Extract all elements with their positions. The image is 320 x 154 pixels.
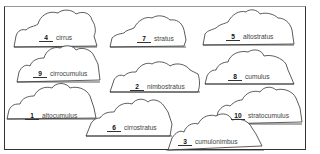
answer-blank[interactable]: 8 bbox=[228, 73, 242, 81]
answer-blank[interactable]: 3 bbox=[178, 138, 192, 146]
answer-blank[interactable]: 1 bbox=[25, 112, 39, 120]
cloud-label-stratus: 7stratus bbox=[137, 35, 174, 43]
answer-blank[interactable]: 4 bbox=[39, 34, 53, 42]
answer-blank[interactable]: 6 bbox=[107, 124, 121, 132]
cloud-label-stratocumulus: 10stratocumulus bbox=[231, 112, 289, 120]
answer-blank[interactable]: 5 bbox=[226, 33, 240, 41]
answer-blank[interactable]: 7 bbox=[137, 35, 151, 43]
cloud-label-cirrostratus: 6cirrostratus bbox=[107, 124, 157, 132]
cloud-label-cirrus: 4cirrus bbox=[39, 34, 72, 42]
cloud-label-cumulonimbus: 3cumulonimbus bbox=[178, 138, 238, 146]
cloud-label-nimbostratus: 2nimbostratus bbox=[130, 83, 185, 91]
cloud-label-cumulus: 8cumulus bbox=[228, 73, 270, 81]
cloud-label-cirrocumulus: 9cirrocumulus bbox=[33, 70, 87, 78]
answer-blank[interactable]: 10 bbox=[231, 112, 245, 120]
answer-blank[interactable]: 9 bbox=[33, 70, 47, 78]
cloud-label-altostratus: 5altostratus bbox=[226, 33, 273, 41]
answer-blank[interactable]: 2 bbox=[130, 83, 144, 91]
cloud-label-altocumulus: 1altocumulus bbox=[25, 112, 77, 120]
